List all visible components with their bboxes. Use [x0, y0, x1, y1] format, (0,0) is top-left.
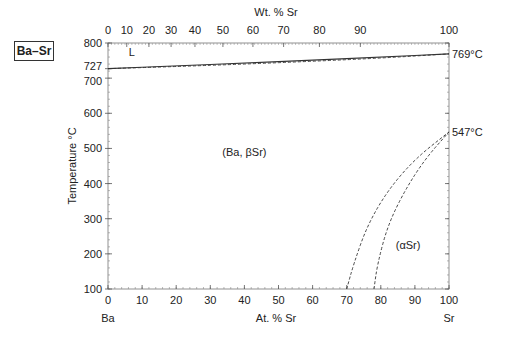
x2-tick-label: 80	[313, 24, 325, 36]
x2-tick-label: 30	[165, 24, 177, 36]
y-tick-label: 800	[84, 37, 102, 49]
x2-tick-label: 40	[189, 24, 201, 36]
x2-tick-label: 0	[105, 24, 111, 36]
y-tick-label: 727	[84, 60, 102, 72]
x2-tick-label: 90	[354, 24, 366, 36]
x-axis-title: At. % Sr	[256, 312, 297, 324]
y-tick-label: 300	[84, 213, 102, 225]
x-tick-label: 50	[272, 294, 284, 306]
annotation-769-c: 769°C	[452, 48, 483, 60]
x2-tick-label: 70	[277, 24, 289, 36]
endpoint-right: Sr	[444, 312, 455, 324]
x-tick-label: 10	[136, 294, 148, 306]
x2-tick-label: 60	[247, 24, 259, 36]
phase-diagram: 0102030405060708090100010203040506070809…	[0, 0, 508, 337]
axes	[105, 43, 449, 289]
y-tick-label: 400	[84, 178, 102, 190]
plot-frame	[108, 43, 449, 289]
series-group	[108, 54, 449, 289]
x-tick-label: 30	[204, 294, 216, 306]
x2-tick-label: 50	[217, 24, 229, 36]
y-tick-label: 200	[84, 248, 102, 260]
series-beta-alpha-boundary-2	[374, 132, 449, 289]
annotation-547-c: 547°C	[452, 126, 483, 138]
x-tick-label: 80	[375, 294, 387, 306]
x-tick-label: 40	[238, 294, 250, 306]
y-axis-title: Temperature °C	[66, 127, 78, 204]
x-tick-label: 70	[341, 294, 353, 306]
y-tick-label: 600	[84, 107, 102, 119]
x-tick-label: 100	[440, 294, 458, 306]
y-tick-label: 700	[84, 75, 102, 87]
series-beta-alpha-boundary-1	[347, 132, 449, 289]
annotation-ba-sr: (Ba, βSr)	[222, 146, 266, 158]
x2-tick-label: 20	[143, 24, 155, 36]
x2-tick-label: 10	[121, 24, 133, 36]
x-tick-label: 20	[170, 294, 182, 306]
annotation-sr: (αSr)	[396, 239, 421, 251]
labels-group: 0102030405060708090100010203040506070809…	[66, 6, 483, 324]
endpoint-left: Ba	[101, 312, 115, 324]
y-tick-label: 100	[84, 283, 102, 295]
x-tick-label: 90	[409, 294, 421, 306]
annotation-l: L	[129, 46, 135, 58]
x2-tick-label: 100	[440, 24, 458, 36]
y-tick-label: 500	[84, 142, 102, 154]
x2-axis-title: Wt. % Sr	[254, 6, 298, 18]
x-tick-label: 60	[306, 294, 318, 306]
x-tick-label: 0	[105, 294, 111, 306]
series-liquidus	[108, 54, 449, 69]
